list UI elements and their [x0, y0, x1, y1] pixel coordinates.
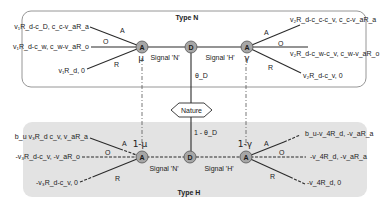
svg-text:D: D: [187, 154, 192, 161]
svg-text:A: A: [139, 44, 144, 51]
type-n-mu: μ: [138, 53, 144, 63]
svg-text:A: A: [243, 154, 248, 161]
type-h-payoff-left-r: -v₃R_d-c_v, 0: [36, 179, 78, 187]
type-n-right-action-o: O: [278, 40, 284, 47]
type-n-payoff-left-a: v₁R_d-c_D, c_c-v_aR_a: [14, 23, 89, 31]
type-n-payoff-right-a: v₂R_d-c_c-c_v, c_c-v_aR_a: [290, 16, 376, 24]
type-h-left-action-o: O: [105, 149, 111, 156]
type-h-left-action-a: A: [122, 140, 127, 147]
type-h-one-minus-gamma: 1-γ: [238, 139, 253, 149]
type-n-right-action-a: A: [264, 29, 269, 36]
svg-text:A: A: [244, 44, 249, 51]
nature-prob-down: 1 - θ_D: [194, 129, 217, 137]
type-n-signal-h: Signal 'H': [205, 54, 234, 62]
type-n-left-action-a: A: [120, 27, 125, 34]
type-n-gamma: γ: [244, 53, 250, 63]
type-n-left-action-o: O: [103, 38, 109, 45]
svg-text:A: A: [139, 154, 144, 161]
type-h-right-action-r: R: [270, 173, 275, 180]
type-h-right-action-a: A: [264, 140, 269, 147]
type-n-right-action-r: R: [268, 64, 273, 71]
type-n-payoff-right-o: v₂R_d-c_w-c_v, c_w-v_aR_o: [290, 50, 379, 58]
nature-label: Nature: [181, 107, 202, 114]
type-h-payoff-left-a: b_u v₃R_d c_v, v_aR_a: [15, 133, 88, 141]
type-h-payoff-right-r: -v_4R_d, 0: [307, 179, 341, 187]
type-n-payoff-right-r: v₂R_d-c_v, 0: [303, 72, 343, 80]
nature-prob-up: θ_D: [195, 72, 208, 80]
type-h-payoff-right-a: b_u-v_4R_d, -v_aR_a: [305, 130, 374, 138]
type-h-one-minus-mu: 1-μ: [133, 139, 148, 149]
type-n-payoff-left-o: v₁R_d-c_w, c_w-v_aR_o: [13, 43, 89, 51]
type-h-left-action-r: R: [115, 175, 120, 182]
type-n-signal-n: Signal 'N': [150, 54, 179, 62]
type-n-payoff-left-r: v₁R_d, 0: [59, 67, 86, 75]
type-h-payoff-left-o: -v₃R_d-c_v, -v_aR_o: [15, 153, 80, 161]
type-h-right-action-o: O: [279, 149, 285, 156]
type-n-left-action-r: R: [114, 61, 119, 68]
nature-node: Nature: [171, 103, 212, 117]
type-n-title: Type N: [176, 14, 199, 22]
type-h-payoff-right-o: -v_4R_d, -v_aR_a: [310, 153, 367, 161]
type-h-signal-n: Signal 'N': [149, 165, 178, 173]
type-h-title: Type H: [178, 189, 201, 197]
type-h-signal-h: Signal 'H': [204, 165, 233, 173]
svg-text:D: D: [188, 44, 193, 51]
game-tree-diagram: Nature A D A A D A Type N Type H Signal …: [0, 0, 384, 209]
